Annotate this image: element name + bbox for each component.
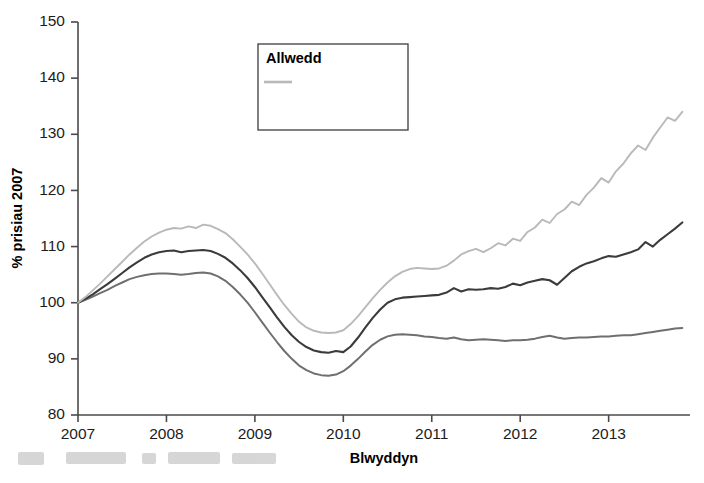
series-line-1: [78, 112, 682, 333]
y-tick-label: 130: [39, 124, 65, 141]
caption-remnant: [18, 448, 318, 470]
y-axis-ticks: 8090100110120130140150: [39, 12, 78, 422]
y-tick-label: 140: [39, 68, 65, 85]
series-line-2: [78, 222, 682, 352]
x-axis-ticks: 2007200820092010201120122013: [61, 415, 626, 442]
y-tick-label: 80: [48, 405, 66, 422]
x-tick-label: 2009: [238, 425, 272, 442]
y-tick-label: 110: [40, 237, 65, 254]
y-tick-label: 90: [48, 349, 66, 366]
series-lines: [78, 112, 682, 376]
x-tick-label: 2008: [149, 425, 183, 442]
x-tick-label: 2010: [326, 425, 361, 442]
x-tick-label: 2012: [503, 425, 537, 442]
chart-figure: 8090100110120130140150 20072008200920102…: [0, 0, 704, 483]
chart-legend: Allwedd: [258, 44, 408, 130]
x-tick-label: 2013: [591, 425, 625, 442]
x-tick-label: 2011: [415, 425, 448, 442]
x-axis-title: Blwyddyn: [350, 450, 418, 466]
y-axis-title: % prisiau 2007: [9, 168, 25, 269]
x-tick-label: 2007: [61, 425, 95, 442]
line-chart: 8090100110120130140150 20072008200920102…: [0, 0, 704, 483]
y-tick-label: 100: [39, 293, 65, 310]
y-tick-label: 150: [39, 12, 65, 29]
series-line-3: [78, 272, 682, 375]
legend-title: Allwedd: [266, 50, 322, 66]
y-tick-label: 120: [39, 181, 65, 198]
